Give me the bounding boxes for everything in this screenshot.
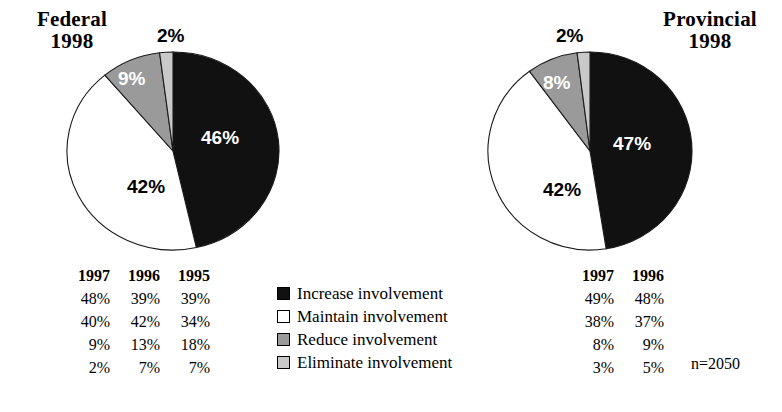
legend-swatch-increase-icon [277, 287, 290, 300]
federal-cell-reduce-1995: 18% [162, 333, 212, 356]
provincial-history-table: 1997 1996 49% 48% 38% 37% 8% 9% 3% 5% [566, 264, 666, 379]
legend-label-reduce: Reduce involvement [297, 330, 437, 350]
sample-size-note: n=2050 [691, 355, 740, 373]
federal-col-header-1996: 1996 [112, 264, 162, 287]
table-header-row: 1997 1996 [566, 264, 666, 287]
table-row: 9% 13% 18% [62, 333, 212, 356]
federal-cell-maintain-1996: 42% [112, 310, 162, 333]
legend-item-eliminate: Eliminate involvement [277, 351, 452, 374]
federal-pie-chart [66, 50, 282, 252]
federal-cell-maintain-1997: 40% [62, 310, 112, 333]
federal-history-table: 1997 1996 1995 48% 39% 39% 40% 42% 34% 9… [62, 264, 212, 379]
federal-pie-svg [66, 50, 282, 252]
federal-cell-maintain-1995: 34% [162, 310, 212, 333]
provincial-slice-label-maintain: 42% [543, 180, 581, 199]
federal-cell-increase-1995: 39% [162, 287, 212, 310]
federal-slice-label-maintain: 42% [127, 177, 165, 196]
legend-label-eliminate: Eliminate involvement [297, 353, 452, 373]
federal-cell-eliminate-1997: 2% [62, 356, 112, 379]
provincial-cell-increase-1996: 48% [616, 287, 666, 310]
table-row: 40% 42% 34% [62, 310, 212, 333]
table-header-row: 1997 1996 1995 [62, 264, 212, 287]
federal-cell-eliminate-1995: 7% [162, 356, 212, 379]
table-row: 3% 5% [566, 356, 666, 379]
table-row: 2% 7% 7% [62, 356, 212, 379]
legend-label-maintain: Maintain involvement [297, 307, 448, 327]
chart-legend: Increase involvement Maintain involvemen… [277, 282, 452, 374]
legend-swatch-eliminate-icon [277, 356, 290, 369]
federal-cell-eliminate-1996: 7% [112, 356, 162, 379]
table-row: 8% 9% [566, 333, 666, 356]
table-row: 38% 37% [566, 310, 666, 333]
federal-col-header-1997: 1997 [62, 264, 112, 287]
provincial-title-text: Provincial [663, 7, 757, 31]
federal-slice-label-eliminate: 2% [157, 26, 184, 45]
federal-slice-label-reduce: 9% [118, 69, 145, 88]
legend-item-increase: Increase involvement [277, 282, 452, 305]
legend-item-reduce: Reduce involvement [277, 328, 452, 351]
provincial-cell-eliminate-1996: 5% [616, 356, 666, 379]
legend-label-increase: Increase involvement [297, 284, 443, 304]
federal-title-year: 1998 [12, 30, 132, 52]
federal-slice-label-increase: 46% [201, 128, 239, 147]
federal-title-text: Federal [37, 7, 107, 31]
provincial-col-header-1996: 1996 [616, 264, 666, 287]
provincial-slice-label-increase: 47% [613, 134, 651, 153]
provincial-pie-chart [487, 50, 697, 252]
provincial-title-year: 1998 [645, 30, 775, 52]
table-row: 49% 48% [566, 287, 666, 310]
federal-cell-increase-1996: 39% [112, 287, 162, 310]
provincial-cell-maintain-1996: 37% [616, 310, 666, 333]
federal-cell-increase-1997: 48% [62, 287, 112, 310]
provincial-slice-label-reduce: 8% [543, 73, 570, 92]
legend-swatch-reduce-icon [277, 333, 290, 346]
federal-chart-title: Federal 1998 [12, 8, 132, 52]
legend-swatch-maintain-icon [277, 310, 290, 323]
provincial-cell-maintain-1997: 38% [566, 310, 616, 333]
federal-col-header-1995: 1995 [162, 264, 212, 287]
provincial-cell-reduce-1997: 8% [566, 333, 616, 356]
provincial-cell-reduce-1996: 9% [616, 333, 666, 356]
legend-item-maintain: Maintain involvement [277, 305, 452, 328]
provincial-pie-svg [487, 50, 697, 252]
provincial-col-header-1997: 1997 [566, 264, 616, 287]
figure-canvas: Federal 1998 Provincial 1998 46% 42% 9% … [0, 0, 782, 412]
federal-cell-reduce-1996: 13% [112, 333, 162, 356]
provincial-cell-eliminate-1997: 3% [566, 356, 616, 379]
provincial-cell-increase-1997: 49% [566, 287, 616, 310]
federal-cell-reduce-1997: 9% [62, 333, 112, 356]
provincial-slice-label-eliminate: 2% [556, 26, 583, 45]
table-row: 48% 39% 39% [62, 287, 212, 310]
provincial-chart-title: Provincial 1998 [645, 8, 775, 52]
